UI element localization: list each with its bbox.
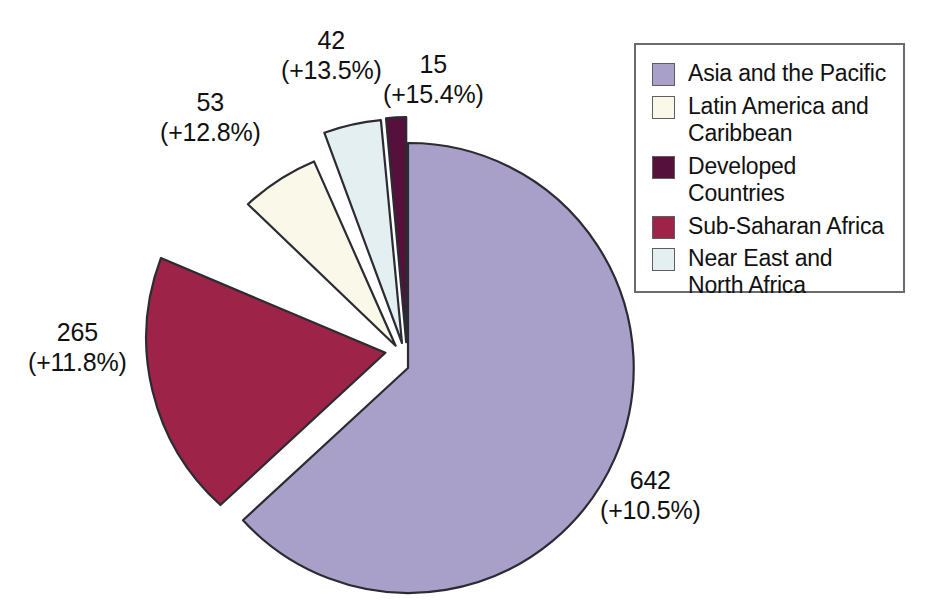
legend-swatch-icon-latin-america-and-caribbean	[652, 96, 675, 119]
legend-label-near-east-and-north-africa: Near East and North Africa	[688, 245, 832, 299]
slice-change-latin-america-and-caribbean: (+12.8%)	[160, 118, 261, 148]
slice-value-sub-saharan-africa: 265	[28, 318, 127, 348]
legend-item-developed-countries[interactable]: Developed Countries	[652, 153, 893, 207]
slice-change-developed-countries: (+15.4%)	[383, 80, 484, 110]
legend-label-developed-countries: Developed Countries	[688, 153, 893, 207]
slice-label-sub-saharan-africa: 265 (+11.8%)	[28, 318, 127, 377]
slice-change-near-east-and-north-africa: (+13.5%)	[281, 56, 382, 86]
legend-item-latin-america-and-caribbean[interactable]: Latin America and Caribbean	[652, 93, 893, 147]
legend-item-near-east-and-north-africa[interactable]: Near East and North Africa	[652, 245, 893, 299]
legend-item-asia-and-the-pacific[interactable]: Asia and the Pacific	[652, 60, 893, 87]
slice-value-asia-and-the-pacific: 642	[600, 466, 701, 496]
legend-swatch-icon-near-east-and-north-africa	[652, 248, 675, 271]
legend-label-latin-america-and-caribbean: Latin America and Caribbean	[688, 93, 869, 147]
slice-change-sub-saharan-africa: (+11.8%)	[28, 348, 127, 378]
legend-item-sub-saharan-africa[interactable]: Sub-Saharan Africa	[652, 213, 893, 240]
slice-value-latin-america-and-caribbean: 53	[160, 88, 261, 118]
slice-label-latin-america-and-caribbean: 53 (+12.8%)	[160, 88, 261, 147]
legend-label-asia-and-the-pacific: Asia and the Pacific	[688, 60, 886, 87]
pie-chart-figure: 642 (+10.5%) 265 (+11.8%) 53 (+12.8%) 42…	[0, 0, 933, 614]
slice-label-asia-and-the-pacific: 642 (+10.5%)	[600, 466, 701, 525]
legend-label-sub-saharan-africa: Sub-Saharan Africa	[688, 213, 884, 240]
legend-swatch-icon-asia-and-the-pacific	[652, 63, 675, 86]
slice-value-developed-countries: 15	[383, 50, 484, 80]
slice-value-near-east-and-north-africa: 42	[281, 26, 382, 56]
legend-swatch-icon-developed-countries	[652, 156, 675, 179]
slice-change-asia-and-the-pacific: (+10.5%)	[600, 496, 701, 526]
slice-label-developed-countries: 15 (+15.4%)	[383, 50, 484, 109]
legend-swatch-icon-sub-saharan-africa	[652, 216, 675, 239]
chart-legend: Asia and the Pacific Latin America and C…	[634, 43, 905, 293]
slice-label-near-east-and-north-africa: 42 (+13.5%)	[281, 26, 382, 85]
